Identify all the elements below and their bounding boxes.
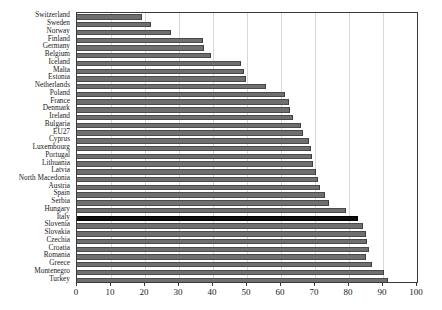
bar-montenegro xyxy=(77,270,384,275)
x-tick-label-20: 20 xyxy=(140,287,149,297)
x-tick-mark-20 xyxy=(144,283,145,286)
bar-denmark xyxy=(77,107,290,112)
bar-slovenia xyxy=(77,223,363,228)
x-tick-label-80: 80 xyxy=(344,287,353,297)
bar-portugal xyxy=(77,154,312,159)
bar-croatia xyxy=(77,247,369,252)
bar-serbia xyxy=(77,200,329,205)
bar-estonia xyxy=(77,76,246,81)
x-tick-mark-30 xyxy=(178,283,179,286)
x-tick-label-40: 40 xyxy=(208,287,217,297)
bar-bulgaria xyxy=(77,123,301,128)
bar-lithuania xyxy=(77,161,313,166)
x-tick-mark-100 xyxy=(416,283,417,286)
bar-sweden xyxy=(77,22,151,27)
x-tick-mark-50 xyxy=(246,283,247,286)
x-tick-label-50: 50 xyxy=(242,287,251,297)
bar-malta xyxy=(77,69,244,74)
y-label-turkey: Turkey xyxy=(49,275,70,283)
x-tick-label-100: 100 xyxy=(409,287,423,297)
bar-eu27 xyxy=(77,130,303,135)
bar-france xyxy=(77,99,289,104)
x-tick-mark-80 xyxy=(348,283,349,286)
bar-belgium xyxy=(77,53,211,58)
bar-finland xyxy=(77,38,203,43)
x-tick-mark-10 xyxy=(110,283,111,286)
x-axis: 0102030405060708090100 xyxy=(76,283,418,305)
x-tick-label-60: 60 xyxy=(276,287,285,297)
bar-czechia xyxy=(77,239,367,244)
bar-poland xyxy=(77,92,285,97)
bar-austria xyxy=(77,185,320,190)
x-tick-mark-0 xyxy=(76,283,77,286)
gridline-100 xyxy=(417,13,418,282)
bar-north-macedonia xyxy=(77,177,318,182)
bar-chart: SwitzerlandSwedenNorwayFinlandGermanyBel… xyxy=(0,0,442,310)
bar-greece xyxy=(77,262,372,267)
bar-series xyxy=(77,13,417,282)
bar-netherlands xyxy=(77,84,266,89)
bar-luxembourg xyxy=(77,146,311,151)
x-tick-label-90: 90 xyxy=(378,287,387,297)
bar-norway xyxy=(77,30,171,35)
x-tick-label-70: 70 xyxy=(310,287,319,297)
bar-cyprus xyxy=(77,138,309,143)
x-tick-label-0: 0 xyxy=(74,287,79,297)
x-tick-mark-70 xyxy=(314,283,315,286)
x-tick-mark-90 xyxy=(382,283,383,286)
bar-italy xyxy=(77,216,358,221)
x-tick-label-30: 30 xyxy=(174,287,183,297)
bar-spain xyxy=(77,192,325,197)
plot-area xyxy=(76,12,418,283)
x-tick-label-10: 10 xyxy=(106,287,115,297)
bar-latvia xyxy=(77,169,316,174)
bar-hungary xyxy=(77,208,346,213)
bar-slovakia xyxy=(77,231,366,236)
bar-switzerland xyxy=(77,14,142,19)
x-tick-mark-40 xyxy=(212,283,213,286)
y-axis-category-labels: SwitzerlandSwedenNorwayFinlandGermanyBel… xyxy=(0,12,73,283)
bar-germany xyxy=(77,45,204,50)
x-tick-mark-60 xyxy=(280,283,281,286)
bar-iceland xyxy=(77,61,241,66)
bar-romania xyxy=(77,254,366,259)
bar-ireland xyxy=(77,115,293,120)
